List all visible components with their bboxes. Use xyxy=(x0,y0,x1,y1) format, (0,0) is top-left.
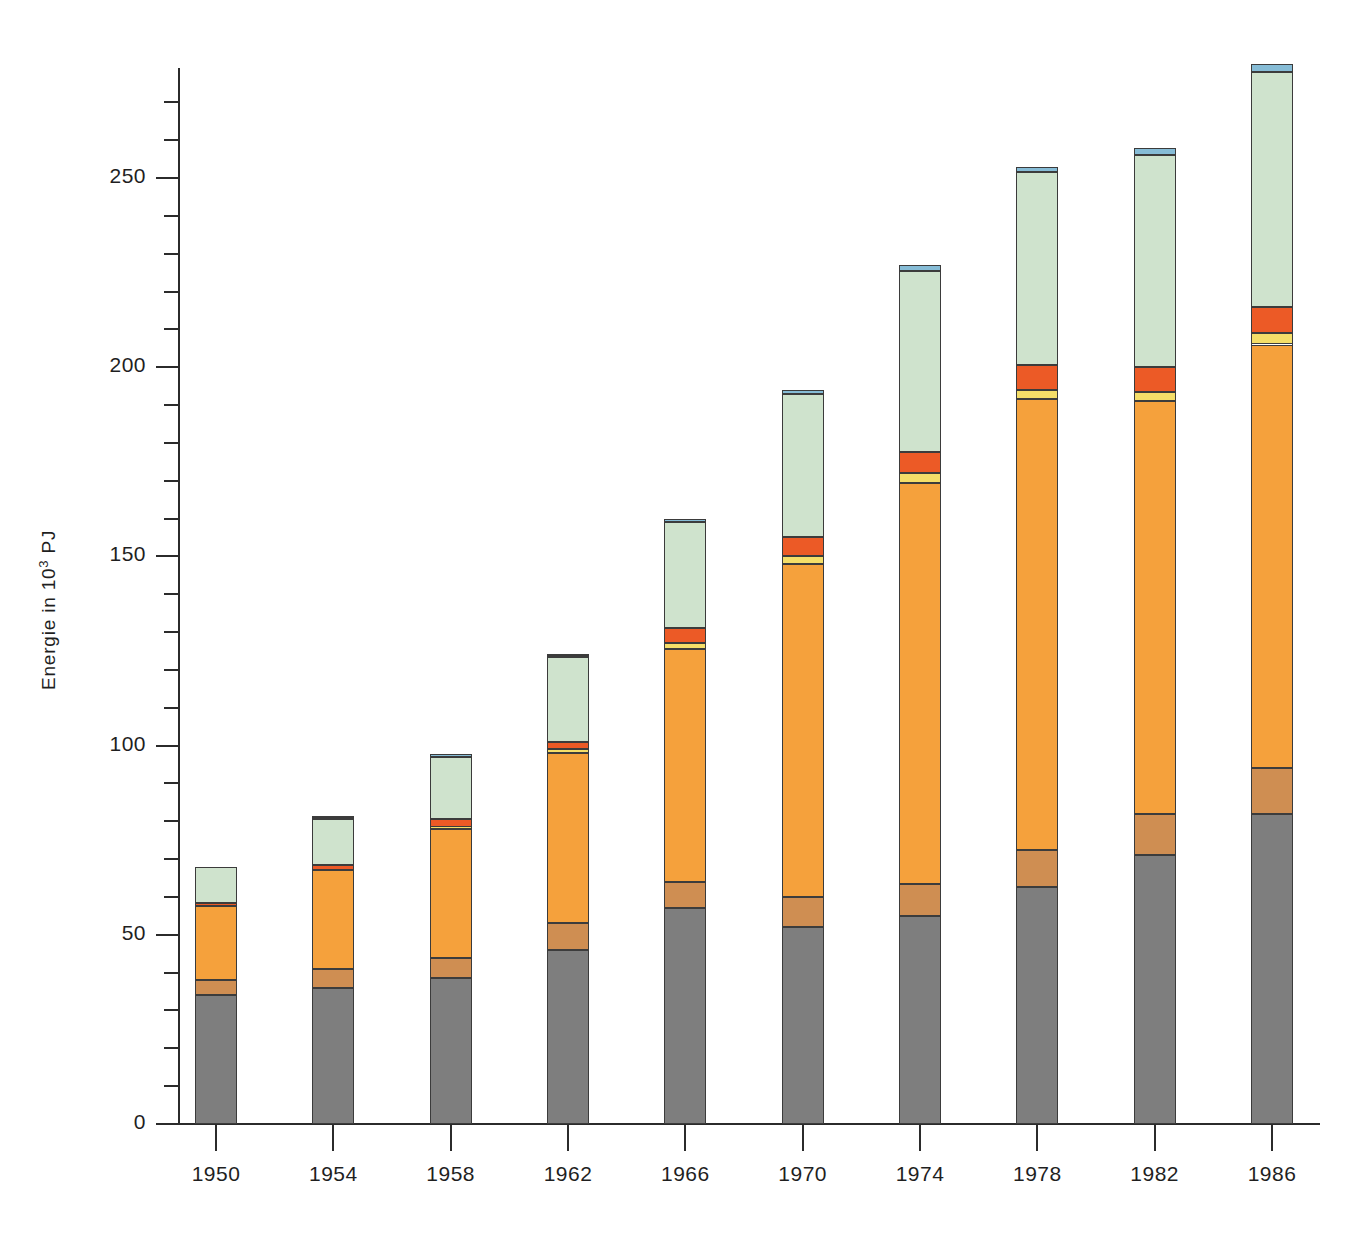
y-axis-minor-tick xyxy=(164,139,178,141)
y-axis-minor-tick xyxy=(164,1047,178,1049)
bar-segment-aussenhandelssaldo[interactable] xyxy=(1251,64,1293,72)
bar-segment-braunkohle[interactable] xyxy=(899,884,941,916)
bar-segment-braunkohle[interactable] xyxy=(312,969,354,988)
bar-1982[interactable] xyxy=(1134,148,1176,1124)
bar-1950[interactable] xyxy=(195,867,237,1124)
bar-1970[interactable] xyxy=(782,390,824,1124)
y-axis-minor-tick xyxy=(164,593,178,595)
bar-segment-erdgas[interactable] xyxy=(1251,333,1293,344)
y-axis-minor-tick xyxy=(164,896,178,898)
x-axis-tick-label: 1958 xyxy=(391,1162,511,1186)
bar-segment-braunkohle[interactable] xyxy=(664,882,706,908)
bar-segment-wasserkraft-sonstige[interactable] xyxy=(547,657,589,742)
y-axis-line xyxy=(178,68,180,1124)
bar-segment-wasserkraft-sonstige[interactable] xyxy=(1016,172,1058,365)
bar-segment-aussenhandelssaldo[interactable] xyxy=(1134,148,1176,156)
y-axis-minor-tick xyxy=(164,253,178,255)
bar-segment-mineraloel[interactable] xyxy=(195,906,237,980)
x-axis-tick xyxy=(332,1125,334,1151)
bar-segment-mineraloel[interactable] xyxy=(782,564,824,897)
x-axis-tick xyxy=(1036,1125,1038,1151)
bar-segment-kernenergie[interactable] xyxy=(899,452,941,473)
bar-segment-wasserkraft-sonstige[interactable] xyxy=(1134,155,1176,367)
bar-segment-braunkohle[interactable] xyxy=(1134,814,1176,856)
bar-segment-erdgas[interactable] xyxy=(1134,392,1176,401)
bar-segment-aussenhandelssaldo[interactable] xyxy=(782,390,824,394)
bar-segment-mineraloel[interactable] xyxy=(899,483,941,884)
bar-segment-braunkohle[interactable] xyxy=(1016,850,1058,888)
bar-segment-mineraloel[interactable] xyxy=(430,829,472,958)
bar-1986[interactable] xyxy=(1251,64,1293,1124)
bar-segment-aussenhandelssaldo[interactable] xyxy=(312,816,354,819)
bar-segment-wasserkraft-sonstige[interactable] xyxy=(664,522,706,628)
bar-segment-steinkohle[interactable] xyxy=(1251,814,1293,1124)
bar-segment-wasserkraft-sonstige[interactable] xyxy=(899,271,941,453)
bar-segment-erdgas[interactable] xyxy=(899,473,941,482)
bar-segment-kernenergie[interactable] xyxy=(1251,307,1293,333)
bar-segment-kernenergie[interactable] xyxy=(1134,367,1176,392)
bar-segment-steinkohle[interactable] xyxy=(1134,855,1176,1124)
bar-segment-mineraloel[interactable] xyxy=(664,649,706,882)
bar-segment-aussenhandelssaldo[interactable] xyxy=(899,265,941,271)
x-axis-tick xyxy=(684,1125,686,1151)
bar-segment-kernenergie[interactable] xyxy=(664,628,706,643)
x-axis-tick xyxy=(802,1125,804,1151)
x-axis-tick xyxy=(919,1125,921,1151)
bar-segment-kernenergie[interactable] xyxy=(782,537,824,556)
bar-segment-steinkohle[interactable] xyxy=(547,950,589,1124)
bar-segment-braunkohle[interactable] xyxy=(1251,768,1293,813)
bar-segment-kernenergie[interactable] xyxy=(547,742,589,750)
bar-segment-steinkohle[interactable] xyxy=(782,927,824,1124)
bar-segment-mineraloel[interactable] xyxy=(1134,401,1176,813)
bar-segment-braunkohle[interactable] xyxy=(430,958,472,979)
bar-segment-kernenergie[interactable] xyxy=(430,819,472,827)
y-axis-minor-tick xyxy=(164,631,178,633)
bar-segment-steinkohle[interactable] xyxy=(195,995,237,1124)
y-axis-major-tick xyxy=(156,745,178,747)
bar-segment-aussenhandelssaldo[interactable] xyxy=(547,654,589,657)
x-axis-tick-label: 1986 xyxy=(1212,1162,1332,1186)
bar-segment-kernenergie[interactable] xyxy=(195,903,237,907)
bar-1974[interactable] xyxy=(899,265,941,1124)
bar-segment-braunkohle[interactable] xyxy=(195,980,237,995)
bar-segment-mineraloel[interactable] xyxy=(1251,345,1293,769)
x-axis-tick-label: 1954 xyxy=(273,1162,393,1186)
x-axis-tick xyxy=(567,1125,569,1151)
bar-segment-wasserkraft-sonstige[interactable] xyxy=(312,819,354,864)
bar-segment-steinkohle[interactable] xyxy=(312,988,354,1124)
bar-segment-mineraloel[interactable] xyxy=(547,753,589,923)
bar-1966[interactable] xyxy=(664,519,706,1124)
bar-segment-steinkohle[interactable] xyxy=(1016,887,1058,1124)
bar-segment-kernenergie[interactable] xyxy=(312,865,354,871)
bar-segment-erdgas[interactable] xyxy=(1016,390,1058,399)
x-axis-tick-label: 1970 xyxy=(743,1162,863,1186)
bar-segment-steinkohle[interactable] xyxy=(664,908,706,1124)
bar-segment-braunkohle[interactable] xyxy=(547,923,589,949)
bar-1962[interactable] xyxy=(547,655,589,1124)
bar-segment-steinkohle[interactable] xyxy=(899,916,941,1124)
bar-1978[interactable] xyxy=(1016,167,1058,1124)
bar-segment-mineraloel[interactable] xyxy=(1016,399,1058,849)
bar-segment-mineraloel[interactable] xyxy=(312,870,354,968)
y-axis-minor-tick xyxy=(164,215,178,217)
bar-segment-erdgas[interactable] xyxy=(782,556,824,564)
bar-segment-wasserkraft-sonstige[interactable] xyxy=(195,867,237,903)
bar-1954[interactable] xyxy=(312,817,354,1124)
y-axis-major-tick xyxy=(156,177,178,179)
bar-segment-erdgas[interactable] xyxy=(547,749,589,753)
bar-segment-aussenhandelssaldo[interactable] xyxy=(1016,167,1058,173)
y-axis-tick-label: 150 xyxy=(24,542,146,566)
bar-segment-wasserkraft-sonstige[interactable] xyxy=(1251,72,1293,307)
y-axis-minor-tick xyxy=(164,1085,178,1087)
bar-segment-braunkohle[interactable] xyxy=(782,897,824,927)
bar-1958[interactable] xyxy=(430,757,472,1124)
y-axis-minor-tick xyxy=(164,291,178,293)
bar-segment-aussenhandelssaldo[interactable] xyxy=(430,754,472,757)
bar-segment-wasserkraft-sonstige[interactable] xyxy=(430,757,472,819)
bar-segment-steinkohle[interactable] xyxy=(430,978,472,1124)
bar-segment-kernenergie[interactable] xyxy=(1016,365,1058,390)
y-axis-minor-tick xyxy=(164,820,178,822)
bar-segment-erdgas[interactable] xyxy=(664,643,706,649)
bar-segment-wasserkraft-sonstige[interactable] xyxy=(782,394,824,538)
bar-segment-aussenhandelssaldo[interactable] xyxy=(664,519,706,523)
